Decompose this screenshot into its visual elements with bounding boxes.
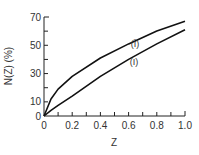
y-axis-label: N(Z) (%) [3,47,14,85]
y-tick-label: 30 [30,68,42,79]
series-label-ibar: (Ī) [131,39,140,49]
x-tick-label: 0.6 [122,120,136,131]
x-tick-label: 0 [41,120,47,131]
x-axis-label: Z [111,137,117,148]
curves [44,21,185,116]
series-line-1 [44,30,185,116]
x-tick-label: 1.0 [178,120,192,131]
tick-labels: 01030507000.20.40.60.81.0 [30,12,193,132]
x-tick-label: 0.8 [150,120,164,131]
chart: 01030507000.20.40.60.81.0 Z N(Z) (%) (Ī)… [0,0,199,155]
x-tick-label: 0.4 [93,120,107,131]
y-tick-label: 50 [30,40,42,51]
series-label-i: (I) [130,57,139,67]
y-tick-label: 10 [30,96,42,107]
y-tick-label: 70 [30,12,42,23]
x-tick-label: 0.2 [65,120,79,131]
